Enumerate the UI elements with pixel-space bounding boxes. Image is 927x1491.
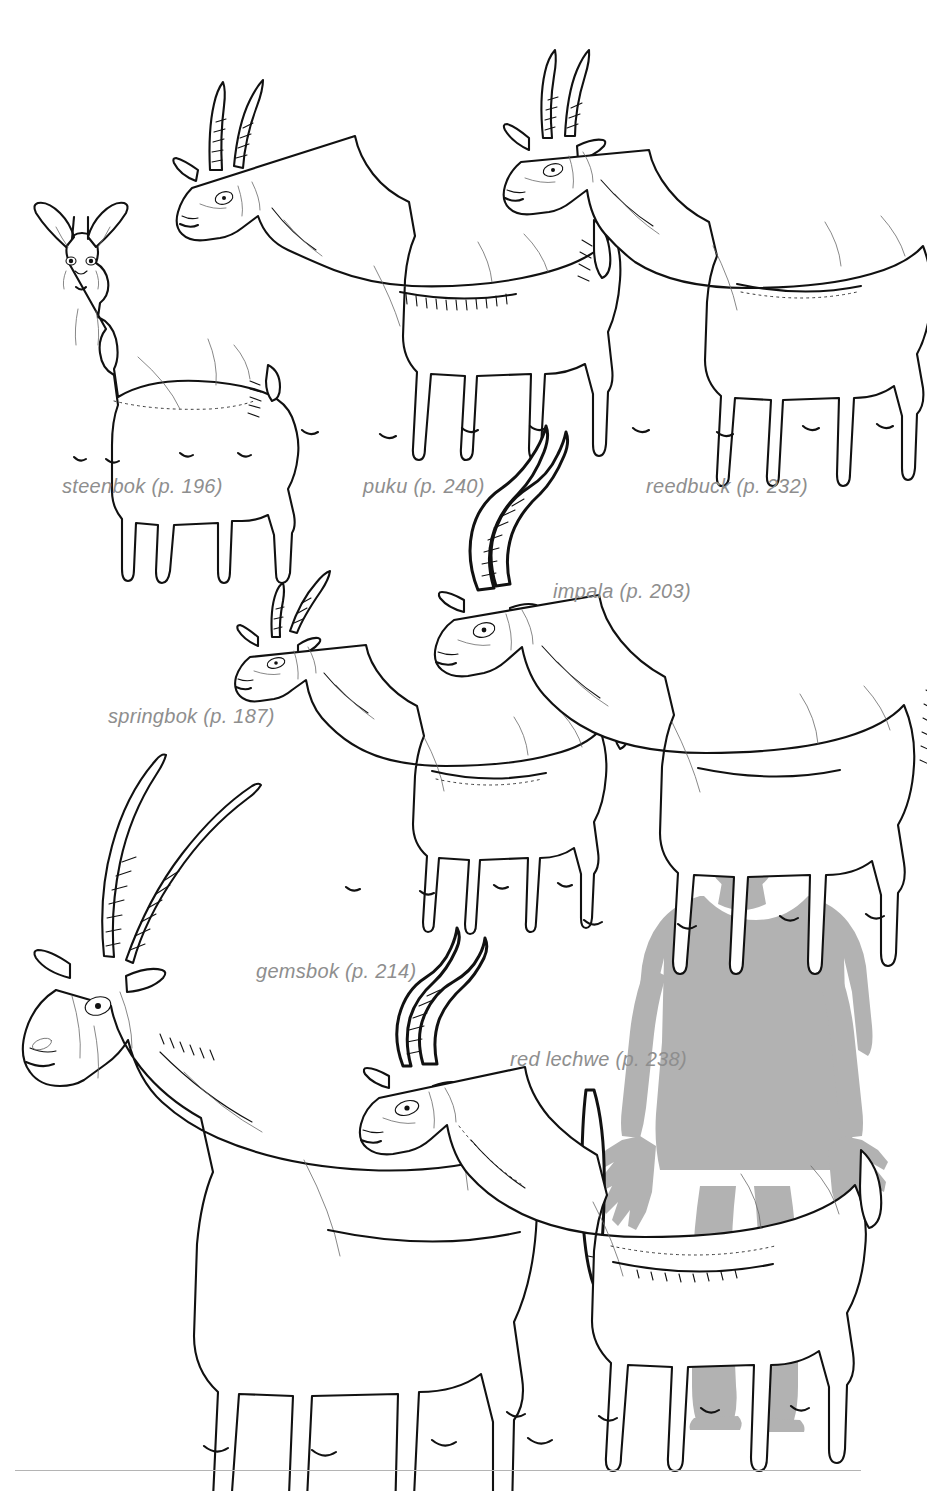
label-steenbok: steenbok (p. 196) <box>62 475 223 498</box>
label-reedbuck: reedbuck (p. 232) <box>646 475 808 498</box>
label-springbok: springbok (p. 187) <box>108 705 275 728</box>
label-puku: puku (p. 240) <box>363 475 485 498</box>
label-gemsbok: gemsbok (p. 214) <box>256 960 416 983</box>
footer-rule <box>15 1470 861 1471</box>
label-impala: impala (p. 203) <box>553 580 691 603</box>
red-lechwe-figure <box>0 0 927 1491</box>
field-guide-plate: steenbok (p. 196) puku (p. 240) reedbuck… <box>0 0 927 1491</box>
label-red-lechwe: red lechwe (p. 238) <box>510 1048 687 1071</box>
